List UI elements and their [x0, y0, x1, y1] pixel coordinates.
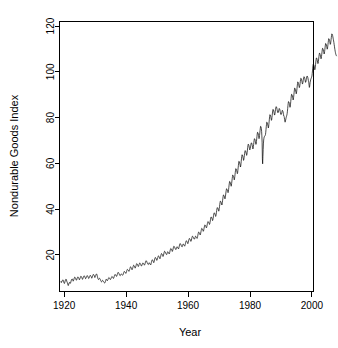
- y-tick-label: 80: [45, 112, 56, 124]
- y-tick-label: 40: [45, 203, 56, 215]
- x-tick-label: 2000: [301, 300, 324, 311]
- y-tick-label: 100: [45, 63, 56, 80]
- chart-figure: 20406080100120 19201940196019802000 Nond…: [0, 0, 338, 348]
- y-axis-title: Nondurable Goods Index: [8, 94, 20, 217]
- y-tick-label: 120: [45, 17, 56, 34]
- x-tick-label: 1940: [115, 300, 138, 311]
- x-tick-label: 1980: [239, 300, 262, 311]
- x-tick-label: 1960: [177, 300, 200, 311]
- figure-background: [0, 0, 338, 348]
- line-chart-canvas: 20406080100120 19201940196019802000 Nond…: [0, 0, 338, 348]
- y-tick-label: 20: [45, 249, 56, 261]
- x-tick-label: 1920: [53, 300, 76, 311]
- x-axis-title: Year: [179, 326, 202, 338]
- y-tick-label: 60: [45, 157, 56, 169]
